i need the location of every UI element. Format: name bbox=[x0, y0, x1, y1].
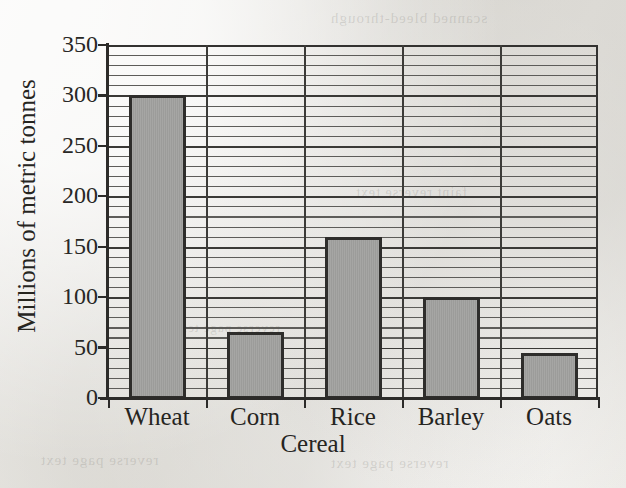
x-axis-label-barley: Barley bbox=[402, 404, 500, 429]
bar-rice bbox=[325, 237, 382, 399]
x-axis-label-wheat: Wheat bbox=[108, 404, 206, 429]
y-axis-label-100: 100 bbox=[12, 284, 98, 308]
bar-corn bbox=[227, 332, 284, 399]
y-axis-line bbox=[106, 43, 109, 400]
bar-wheat bbox=[129, 95, 186, 399]
x-axis-label-rice: Rice bbox=[304, 404, 402, 429]
y-axis-label-150: 150 bbox=[12, 234, 98, 258]
category-separator-3 bbox=[402, 45, 404, 398]
y-axis-label-0: 0 bbox=[12, 385, 98, 409]
bar-oats bbox=[521, 353, 578, 399]
x-axis-line bbox=[100, 397, 600, 400]
x-axis-title: Cereal bbox=[0, 430, 626, 458]
y-axis-label-200: 200 bbox=[12, 183, 98, 207]
y-axis-label-300: 300 bbox=[12, 82, 98, 106]
bar-barley bbox=[423, 297, 480, 399]
category-separator-1 bbox=[206, 45, 208, 398]
plot-border-right bbox=[596, 45, 598, 398]
y-axis-label-250: 250 bbox=[12, 133, 98, 157]
x-axis-label-corn: Corn bbox=[206, 404, 304, 429]
y-axis-label-50: 50 bbox=[12, 335, 98, 359]
plot-border-top bbox=[108, 45, 598, 47]
category-separator-4 bbox=[500, 45, 502, 398]
x-axis-label-oats: Oats bbox=[500, 404, 598, 429]
x-axis-tick-5 bbox=[598, 397, 600, 408]
plot-area bbox=[108, 45, 598, 398]
y-axis-label-350: 350 bbox=[12, 32, 98, 56]
bar-chart-figure: Millions of metric tonnes 05010015020025… bbox=[0, 0, 626, 488]
category-separator-2 bbox=[304, 45, 306, 398]
